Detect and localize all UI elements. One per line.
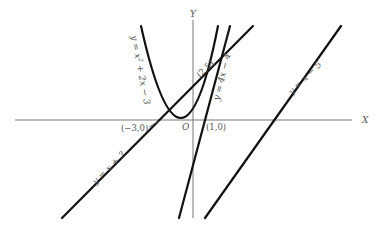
x-axis-label: X — [361, 115, 369, 125]
point-label-2-5: (2,5) — [194, 58, 215, 79]
point-label-1-0: (1,0) — [206, 122, 226, 132]
coordinate-diagram: X Y O y = x2 + 2x − 3 y = 4x − 4 y = x +… — [0, 0, 380, 236]
line-x-plus-3-label: y = x + 3 — [90, 149, 128, 187]
origin-label: O — [182, 122, 190, 132]
line-4x-label: y = 4x − 4 — [211, 52, 233, 102]
point-label-neg3-0: (−3,0) — [121, 123, 148, 133]
y-axis-label: Y — [190, 9, 197, 19]
parabola-label: y = x2 + 2x − 3 — [129, 33, 153, 105]
line-x-minus-5-label: y = x − 5 — [286, 59, 324, 97]
